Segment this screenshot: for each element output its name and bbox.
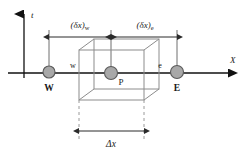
node-P-label: P — [118, 77, 123, 87]
face-e-label: e — [158, 61, 162, 70]
dimension-dx-e-label-sub: e — [151, 24, 154, 31]
dimension-dx-w-label-sub: w — [85, 24, 90, 31]
node-W-circle — [43, 66, 55, 78]
node-P-circle — [105, 67, 118, 80]
node-W-label: W — [44, 83, 54, 93]
face-w-label: w — [70, 61, 76, 70]
node-E-circle — [171, 66, 184, 79]
x-axis-label: X — [229, 55, 236, 65]
dimension-dx-w-label-main: (δx) — [71, 20, 85, 30]
control-volume-figure: t X — [0, 0, 247, 154]
node-E-label: E — [174, 83, 180, 93]
dimension-dx-e-label-main: (δx) — [136, 20, 150, 30]
dimension-delta-x-label: Δx — [105, 139, 117, 149]
